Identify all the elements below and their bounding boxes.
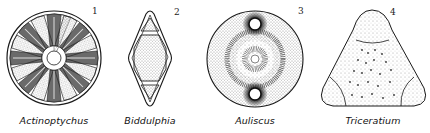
panel-number-2: 2 [174,7,180,17]
label-auliscus: Auliscus [235,115,275,126]
panel-number-4: 4 [390,7,396,17]
diatom-illustrations [0,0,430,133]
label-biddulphia: Biddulphia [124,115,175,126]
panel-number-3: 3 [298,6,304,16]
biddulphia-drawing [129,11,172,106]
panel-number-1: 1 [92,6,98,16]
actinoptychus-drawing [7,11,101,105]
label-actinoptychus: Actinoptychus [20,115,89,126]
label-triceratium: Triceratium [345,115,400,126]
triceratium-drawing [321,10,425,106]
auliscus-drawing [207,11,303,107]
